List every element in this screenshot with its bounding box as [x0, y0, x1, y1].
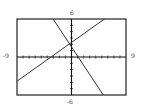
graph-plot-area — [0, 0, 143, 109]
